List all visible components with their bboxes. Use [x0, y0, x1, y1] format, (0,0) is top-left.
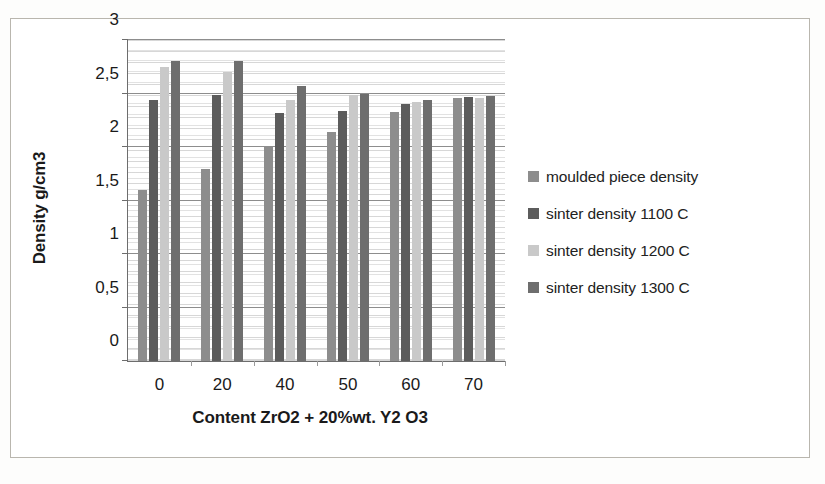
legend-swatch-icon [528, 171, 539, 182]
y-axis-tick-label: 1 [110, 224, 119, 244]
bar[interactable] [286, 100, 295, 361]
x-axis-tick-mark [191, 361, 192, 366]
x-axis-title: Content ZrO2 + 20%wt. Y2 O3 [110, 408, 510, 428]
bar-group [191, 40, 254, 361]
bar[interactable] [360, 94, 369, 362]
legend-item-label: sinter density 1200 C [546, 242, 690, 260]
bar[interactable] [160, 67, 169, 361]
legend-item[interactable]: sinter density 1300 C [528, 269, 778, 306]
bar-group [379, 40, 442, 361]
legend-item-label: moulded piece density [546, 168, 698, 186]
x-axis-tick-mark [379, 361, 380, 366]
x-axis-tick-mark [317, 361, 318, 366]
legend-swatch-icon [528, 282, 539, 293]
legend-item[interactable]: moulded piece density [528, 158, 778, 195]
x-axis-tick-mark [442, 361, 443, 366]
y-axis-tick-label: 0,5 [95, 278, 119, 298]
bar[interactable] [138, 190, 147, 361]
x-axis-tick-label: 60 [401, 375, 420, 395]
bar-group [317, 40, 380, 361]
legend-item-label: sinter density 1100 C [546, 205, 688, 223]
bar-group [128, 40, 191, 361]
legend-swatch-icon [528, 208, 539, 219]
y-axis-tick-label: 0 [110, 331, 119, 351]
bar[interactable] [171, 61, 180, 361]
bar[interactable] [453, 98, 462, 361]
bar[interactable] [390, 112, 399, 361]
y-axis-tick-label: 2 [110, 117, 119, 137]
bar[interactable] [349, 95, 358, 361]
plot-area: 00,511,522,53 02040506070 [127, 40, 505, 362]
bar[interactable] [149, 100, 158, 361]
y-axis-tick-label: 1,5 [95, 171, 119, 191]
bar-group [442, 40, 505, 361]
x-axis-tick-mark [254, 361, 255, 366]
bar[interactable] [223, 72, 232, 361]
bar-group [254, 40, 317, 361]
bar[interactable] [423, 100, 432, 361]
x-axis-tick-label: 40 [276, 375, 295, 395]
bar[interactable] [234, 61, 243, 361]
x-axis-tick-label: 50 [338, 375, 357, 395]
bar[interactable] [297, 86, 306, 361]
bar[interactable] [412, 102, 421, 361]
bar[interactable] [486, 96, 495, 361]
bar[interactable] [275, 113, 284, 361]
bar[interactable] [464, 97, 473, 361]
bar[interactable] [212, 95, 221, 361]
x-axis-tick-label: 0 [155, 375, 164, 395]
legend-item[interactable]: sinter density 1100 C [528, 195, 778, 232]
x-axis-tick-mark [505, 361, 506, 366]
y-axis-title: Density g/cm3 [30, 108, 50, 308]
y-axis-tick-label: 3 [110, 10, 119, 30]
x-axis-tick-label: 70 [464, 375, 483, 395]
bar[interactable] [338, 111, 347, 361]
bar[interactable] [327, 132, 336, 361]
y-axis-tick-label: 2,5 [95, 64, 119, 84]
bar[interactable] [475, 98, 484, 361]
legend-swatch-icon [528, 245, 539, 256]
bar[interactable] [264, 147, 273, 361]
chart-figure: Density g/cm3 Content ZrO2 + 20%wt. Y2 O… [0, 0, 825, 484]
bar[interactable] [401, 104, 410, 361]
x-axis-tick-label: 20 [213, 375, 232, 395]
chart-legend: moulded piece densitysinter density 1100… [528, 158, 778, 306]
legend-item-label: sinter density 1300 C [546, 279, 690, 297]
bar[interactable] [201, 169, 210, 361]
legend-item[interactable]: sinter density 1200 C [528, 232, 778, 269]
bar-series-container [128, 40, 505, 361]
